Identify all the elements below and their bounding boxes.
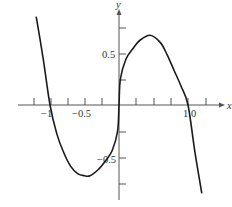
chart: −1 −0.5 1.0 0.5 −0.5 x y [0, 0, 232, 207]
y-tick-label-05: 0.5 [102, 49, 115, 60]
x-axis-arrow-icon [219, 103, 225, 108]
x-tick-label-neg05: −0.5 [72, 108, 91, 119]
y-ticks [119, 28, 126, 184]
x-axis-label: x [226, 100, 232, 111]
y-axis-label: y [115, 0, 121, 10]
